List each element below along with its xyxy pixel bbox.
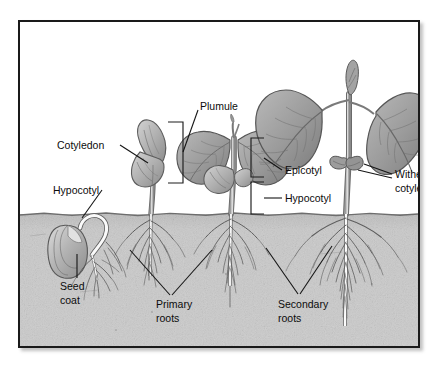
label-withered-line2: cotyledons	[395, 182, 418, 194]
label-primary-roots-line1: Primary	[156, 298, 193, 310]
label-secondary-roots-line1: Secondary	[278, 298, 329, 310]
primary-root-stage-4	[345, 214, 346, 326]
label-plumule: Plumule	[200, 100, 238, 112]
label-cotyledon: Cotyledon	[57, 139, 104, 151]
label-seed-coat-line2: coat	[60, 294, 80, 306]
label-secondary-roots-line2: roots	[278, 312, 301, 324]
label-hypocotyl-right: Hypocotyl	[285, 192, 331, 204]
label-withered-line1: Withered	[395, 168, 418, 180]
figure-root: Cotyledon Hypocotyl Seed coat Plumule Ep…	[0, 0, 441, 366]
figure-frame: Cotyledon Hypocotyl Seed coat Plumule Ep…	[18, 20, 420, 348]
label-seed-coat-line1: Seed	[60, 280, 85, 292]
cotyledon-right-stage-3	[235, 169, 254, 187]
withered-cotyledon-right	[346, 156, 363, 170]
cotyledon-left-stage-3	[204, 166, 234, 194]
label-hypocotyl-left: Hypocotyl	[53, 184, 99, 196]
withered-cotyledon-left	[330, 156, 348, 169]
label-epicotyl: Epicotyl	[285, 164, 322, 176]
germination-diagram: Cotyledon Hypocotyl Seed coat Plumule Ep…	[20, 22, 418, 346]
primary-root-stage-3	[230, 214, 231, 286]
label-primary-roots-line2: roots	[156, 312, 179, 324]
